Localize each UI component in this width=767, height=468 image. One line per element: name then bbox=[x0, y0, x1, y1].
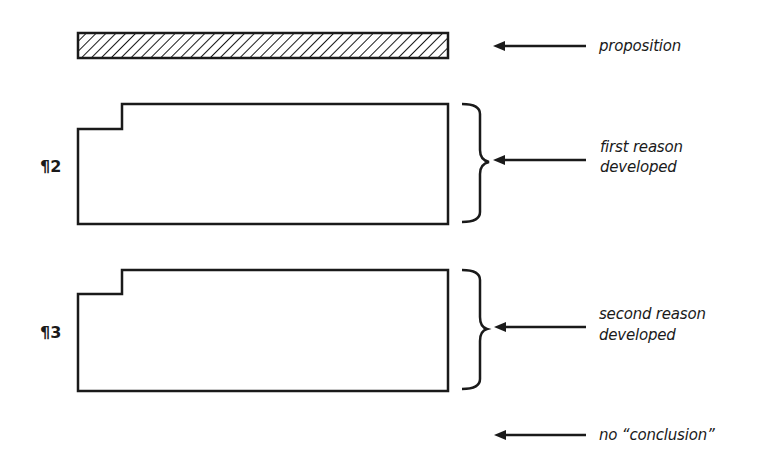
paragraph-2-brace-icon bbox=[462, 104, 489, 222]
paragraph-2-marker: ¶2 bbox=[40, 157, 61, 176]
paragraph-2-label-line1: first reason bbox=[600, 137, 683, 157]
paragraph-2-block bbox=[78, 104, 448, 224]
paragraph-3-arrow-icon bbox=[494, 322, 586, 332]
paragraph-2-label-line2: developed bbox=[600, 157, 677, 177]
conclusion-arrow-icon bbox=[494, 430, 586, 440]
paragraph-3-label-line1: second reason bbox=[599, 304, 706, 324]
proposition-arrow-icon bbox=[493, 41, 586, 51]
proposition-label: proposition bbox=[599, 36, 681, 56]
paragraph-3-marker: ¶3 bbox=[40, 323, 61, 342]
paragraph-2-arrow-icon bbox=[493, 155, 586, 165]
diagram-canvas bbox=[0, 0, 767, 468]
paragraph-3-label-line2: developed bbox=[599, 325, 676, 345]
paragraph-3-block bbox=[78, 270, 448, 391]
proposition-bar bbox=[78, 33, 448, 58]
conclusion-label: no “conclusion” bbox=[599, 425, 715, 445]
paragraph-3-brace-icon bbox=[462, 270, 487, 389]
